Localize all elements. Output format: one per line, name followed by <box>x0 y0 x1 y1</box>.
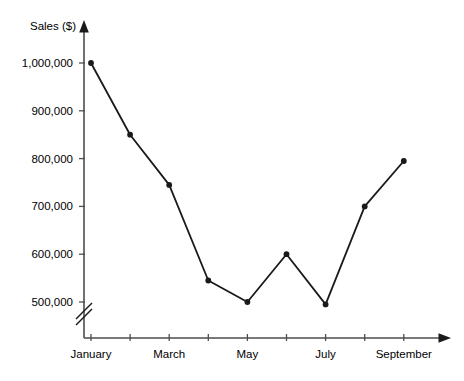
x-tick-label: January <box>71 348 112 360</box>
x-tick-label: May <box>237 348 259 360</box>
data-point <box>362 204 368 210</box>
chart-canvas: Sales ($) 500,000600,000700,000800,00090… <box>0 0 464 381</box>
data-point <box>88 60 94 66</box>
y-tick-label: 900,000 <box>31 105 73 117</box>
y-tick-label: 800,000 <box>31 153 73 165</box>
x-tick-label: September <box>376 348 432 360</box>
data-point <box>127 132 133 138</box>
data-series-line <box>91 63 404 304</box>
x-axis-arrowhead <box>439 333 452 343</box>
line-chart: Sales ($) 500,000600,000700,000800,00090… <box>0 0 464 381</box>
x-tick-label: March <box>153 348 185 360</box>
y-axis-title: Sales ($) <box>30 20 76 32</box>
data-point <box>401 158 407 164</box>
y-tick-label: 600,000 <box>31 248 73 260</box>
data-point <box>166 182 172 188</box>
data-point-group <box>88 60 407 307</box>
data-point <box>205 278 211 284</box>
data-point <box>245 299 251 305</box>
data-point <box>323 301 329 307</box>
y-tick-label: 500,000 <box>31 296 73 308</box>
data-point <box>284 251 290 257</box>
y-axis-arrowhead <box>79 20 89 33</box>
x-tick-label: July <box>315 348 336 360</box>
y-tick-group: 500,000600,000700,000800,000900,0001,000… <box>22 57 85 308</box>
y-tick-label: 700,000 <box>31 200 73 212</box>
y-tick-label: 1,000,000 <box>22 57 73 69</box>
